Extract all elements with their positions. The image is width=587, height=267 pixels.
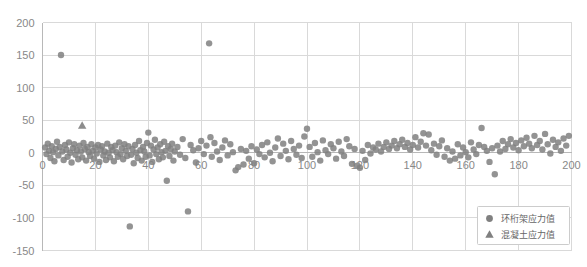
data-point-circle [177, 152, 183, 158]
data-point-circle [343, 136, 349, 142]
data-point-circle [285, 156, 291, 162]
data-point-circle [507, 136, 513, 142]
data-point-circle [433, 152, 439, 158]
data-point-circle [146, 152, 152, 158]
y-tick-label: 50 [22, 114, 34, 126]
data-point-circle [425, 131, 431, 137]
x-tick-label: 140 [404, 159, 422, 171]
data-point-circle [136, 138, 142, 144]
data-point-circle [293, 152, 299, 158]
legend-marker-circle [486, 215, 493, 222]
data-point-circle [531, 133, 537, 139]
data-point-circle [500, 138, 506, 144]
data-point-circle [219, 144, 225, 150]
data-point-circle [198, 138, 204, 144]
data-point-circle [301, 133, 307, 139]
data-point-circle [544, 141, 550, 147]
data-point-circle [428, 147, 434, 153]
data-point-circle [96, 159, 102, 165]
data-point-circle [359, 148, 365, 154]
x-tick-label: 180 [509, 159, 527, 171]
scatter-chart: 200150100500-50-100-15002040608010012014… [0, 0, 587, 267]
data-point-circle [523, 135, 529, 141]
data-point-circle [478, 125, 484, 131]
data-point-circle [362, 157, 368, 163]
y-tick-label: -100 [12, 212, 34, 224]
data-point-circle [203, 142, 209, 148]
data-point-circle [68, 159, 74, 165]
data-point-circle [542, 131, 548, 137]
data-point-circle [206, 40, 212, 46]
data-point-circle [217, 157, 223, 163]
data-point-circle [261, 154, 267, 160]
data-point-circle [452, 155, 458, 161]
data-point-circle [423, 142, 429, 148]
data-point-circle [269, 158, 275, 164]
data-point-circle [317, 157, 323, 163]
data-point-circle [185, 208, 191, 214]
data-point-circle [288, 138, 294, 144]
data-point-circle [304, 125, 310, 131]
legend-label: 环桁架应力值 [501, 213, 555, 224]
data-point-circle [412, 134, 418, 140]
data-point-circle [418, 139, 424, 145]
data-point-circle [455, 141, 461, 147]
y-tick-label: 0 [28, 147, 34, 159]
data-point-circle [444, 145, 450, 151]
y-axis-ticks: 200150100500-50-100-150 [12, 17, 34, 257]
data-point-circle [51, 158, 57, 164]
y-tick-label: -50 [19, 179, 35, 191]
data-point-circle [277, 153, 283, 159]
data-point-circle [563, 142, 569, 148]
data-point-circle [486, 159, 492, 165]
y-tick-label: 150 [16, 49, 34, 61]
data-point-circle [539, 146, 545, 152]
data-point-circle [193, 159, 199, 165]
data-point-circle [170, 157, 176, 163]
data-point-circle [468, 139, 474, 145]
y-tick-label: -150 [12, 245, 34, 257]
data-point-circle [145, 129, 151, 135]
data-point-circle [306, 144, 312, 150]
data-point-triangle [78, 121, 86, 129]
data-point-circle [275, 135, 281, 141]
data-point-circle [314, 149, 320, 155]
data-point-circle [415, 144, 421, 150]
data-point-circle [357, 165, 363, 171]
data-point-circle [494, 142, 500, 148]
data-point-circle [320, 137, 326, 143]
data-point-circle [243, 148, 249, 154]
data-point-circle [375, 140, 381, 146]
y-tick-label: 200 [16, 17, 34, 29]
data-point-circle [201, 151, 207, 157]
data-point-circle [251, 160, 257, 166]
data-point-circle [312, 140, 318, 146]
data-point-circle [547, 150, 553, 156]
data-point-circle [207, 134, 213, 140]
data-point-circle [473, 151, 479, 157]
x-tick-label: 200 [562, 159, 580, 171]
data-point-circle [214, 148, 220, 154]
data-point-circle [222, 137, 228, 143]
data-point-circle [558, 148, 564, 154]
data-point-circle [336, 139, 342, 145]
data-point-circle [230, 149, 236, 155]
data-point-circle [169, 140, 175, 146]
data-point-circle [164, 178, 170, 184]
data-point-circle [391, 138, 397, 144]
data-point-circle [351, 146, 357, 152]
x-tick-label: 160 [457, 159, 475, 171]
data-point-circle [283, 148, 289, 154]
data-point-circle [264, 139, 270, 145]
data-point-circle [566, 133, 572, 139]
data-point-circle [309, 153, 315, 159]
x-tick-label: 0 [39, 159, 45, 171]
series-triangle [78, 121, 86, 129]
data-point-circle [179, 136, 185, 142]
legend-label: 混凝土应力值 [501, 229, 555, 240]
data-point-circle [127, 223, 133, 229]
data-point-circle [195, 145, 201, 151]
data-point-circle [436, 143, 442, 149]
data-point-circle [149, 159, 155, 165]
data-point-circle [58, 52, 64, 58]
